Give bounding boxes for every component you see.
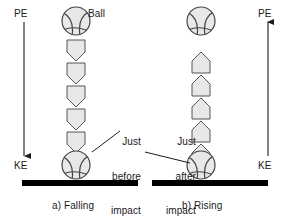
panel-caption-rising: b) Rising xyxy=(182,200,222,212)
ball-top-falling xyxy=(62,7,90,36)
ball-bottom-falling xyxy=(62,151,90,180)
physics-diagram-svg xyxy=(0,0,291,224)
ball-label: Ball xyxy=(88,8,105,20)
diagram-canvas: PE KE PE KE Ball Just before impact Just… xyxy=(0,0,291,224)
callout-line-3: impact xyxy=(93,205,141,217)
callout-line-2: before xyxy=(93,171,141,183)
callout-line-1: Just xyxy=(93,136,141,148)
panel-caption-falling: a) Falling xyxy=(52,200,94,212)
callout-line-2: after xyxy=(148,171,196,183)
axis-label-pe-rising: PE xyxy=(258,8,272,20)
callout-line-1: Just xyxy=(148,136,196,148)
axis-label-ke-rising: KE xyxy=(258,160,272,172)
axis-label-ke-falling: KE xyxy=(14,160,28,172)
ball-top-rising xyxy=(187,7,215,36)
callout-just-before-impact: Just before impact xyxy=(93,113,141,224)
motion-chevrons-falling xyxy=(67,40,85,153)
axis-label-pe-falling: PE xyxy=(14,8,28,20)
